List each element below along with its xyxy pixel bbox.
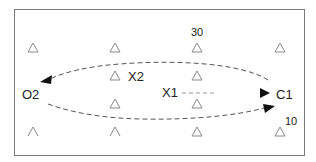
label-o2: O2 — [22, 88, 39, 101]
upper-arc-dashed-line — [52, 62, 268, 80]
label-x1: X1 — [162, 86, 178, 99]
arrowhead-right-lower-icon — [263, 104, 275, 113]
label-c1: C1 — [276, 88, 293, 101]
triangle-marker-icon — [275, 43, 285, 52]
caret-marker-icon — [110, 127, 120, 136]
arrowhead-left-icon — [40, 75, 52, 84]
triangle-marker-icon — [192, 127, 202, 136]
label-x2: X2 — [128, 70, 144, 83]
triangle-marker-icon — [192, 71, 202, 80]
triangle-marker-icon — [28, 43, 38, 52]
label-value-10: 10 — [285, 116, 297, 127]
triangle-marker-icon — [110, 71, 120, 80]
triangle-markers — [28, 43, 285, 136]
triangle-marker-icon — [192, 43, 202, 52]
label-value-30: 30 — [191, 27, 203, 38]
diagram-canvas — [0, 0, 316, 162]
triangle-marker-icon — [110, 99, 120, 108]
lower-arc-dashed-line — [48, 104, 264, 119]
caret-marker-icon — [28, 127, 38, 136]
triangle-marker-icon — [110, 43, 120, 52]
arrowhead-right-c1-icon — [260, 88, 270, 98]
triangle-marker-icon — [192, 99, 202, 108]
triangle-marker-icon — [275, 127, 285, 136]
